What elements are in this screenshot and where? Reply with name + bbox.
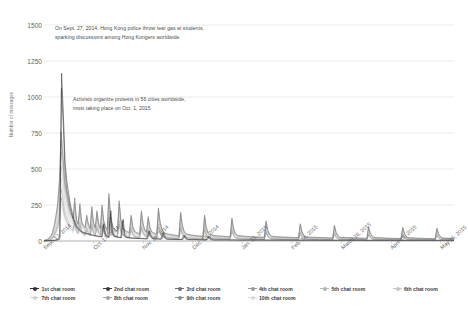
legend-marker-icon xyxy=(103,286,112,291)
series-line xyxy=(44,178,454,241)
legend-label: 7th chat room xyxy=(42,295,76,301)
series-line xyxy=(44,166,454,241)
legend-item[interactable]: 1st chat room xyxy=(30,284,103,293)
legend-item[interactable]: 2nd chat room xyxy=(103,284,176,293)
line-chart: Number of messages 025050075010001250150… xyxy=(0,0,468,313)
y-tick-label: 1500 xyxy=(2,22,42,29)
y-tick-label: 750 xyxy=(2,130,42,137)
legend-marker-icon xyxy=(103,295,112,300)
gridlines xyxy=(44,25,454,241)
legend-marker-icon xyxy=(393,286,402,291)
legend-label: 9th chat room xyxy=(187,295,221,301)
y-axis-ticks: 0250500750100012501500 xyxy=(0,0,42,313)
legend-marker-icon xyxy=(248,295,257,300)
legend-item[interactable]: 9th chat room xyxy=(175,293,248,302)
plot-area xyxy=(0,0,468,313)
legend-item[interactable]: 6th chat room xyxy=(393,284,466,293)
legend-marker-icon xyxy=(30,295,39,300)
legend-label: 1st chat room xyxy=(42,286,75,292)
y-tick-label: 500 xyxy=(2,166,42,173)
legend-marker-icon xyxy=(30,286,39,291)
legend-label: 6th chat room xyxy=(404,286,438,292)
series-line xyxy=(44,132,454,241)
legend-item[interactable]: 7th chat room xyxy=(30,293,103,302)
legend-marker-icon xyxy=(248,286,257,291)
chart-legend: 1st chat room2nd chat room3rd chat room4… xyxy=(30,284,466,302)
legend-label: 3rd chat room xyxy=(187,286,221,292)
legend-item[interactable]: 8th chat room xyxy=(103,293,176,302)
annotation-text: On Sept. 27, 2014, Hong Kong police thro… xyxy=(55,24,204,42)
legend-item[interactable]: 3rd chat room xyxy=(175,284,248,293)
y-tick-label: 1000 xyxy=(2,94,42,101)
legend-item[interactable]: 10th chat room xyxy=(248,293,321,302)
annotation-text: Activists organize protests in 56 cities… xyxy=(73,95,186,113)
legend-marker-icon xyxy=(175,295,184,300)
series-line xyxy=(44,140,454,240)
legend-label: 10th chat room xyxy=(259,295,296,301)
y-tick-label: 250 xyxy=(2,202,42,209)
legend-label: 5th chat room xyxy=(332,286,366,292)
legend-label: 4th chat room xyxy=(259,286,293,292)
y-tick-label: 0 xyxy=(2,238,42,245)
legend-item[interactable]: 4th chat room xyxy=(248,284,321,293)
legend-marker-icon xyxy=(175,286,184,291)
legend-label: 8th chat room xyxy=(114,295,148,301)
y-tick-label: 1250 xyxy=(2,58,42,65)
legend-item[interactable]: 5th chat room xyxy=(320,284,393,293)
legend-marker-icon xyxy=(320,286,329,291)
legend-label: 2nd chat room xyxy=(114,286,149,292)
